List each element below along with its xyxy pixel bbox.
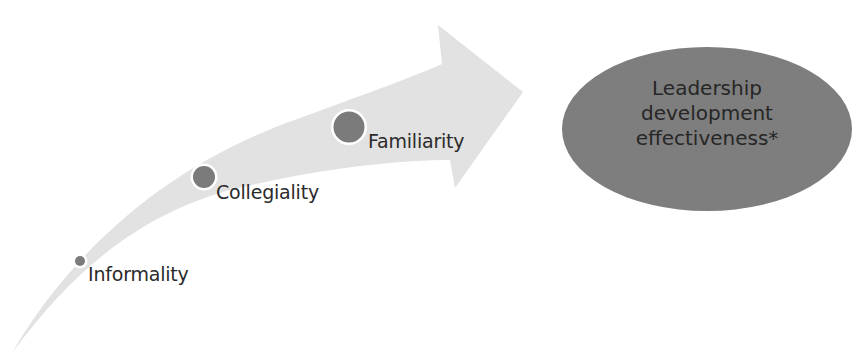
outcome-label: Leadership development effectiveness* <box>562 76 852 151</box>
circle-marker-icon <box>334 112 365 143</box>
circle-marker-icon <box>193 166 215 188</box>
collegiality-marker <box>191 164 218 191</box>
circle-marker-icon <box>75 256 85 266</box>
familiarity-marker <box>331 109 367 145</box>
outcome-line-3: effectiveness* <box>562 126 852 151</box>
stage-label-collegiality: Collegiality <box>216 181 319 203</box>
stage-label-informality: Informality <box>88 263 189 285</box>
outcome-line-2: development <box>562 101 852 126</box>
stage-label-familiarity: Familiarity <box>368 130 464 152</box>
diagram-canvas <box>0 0 857 362</box>
outcome-line-1: Leadership <box>562 76 852 101</box>
informality-marker <box>73 254 88 269</box>
